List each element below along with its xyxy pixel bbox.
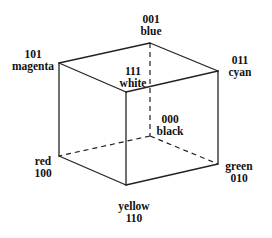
vertex-color-name: green	[221, 160, 257, 172]
edge-blue-cyan	[150, 43, 218, 71]
vertex-code: 111	[114, 65, 152, 77]
vertex-code: 010	[221, 172, 257, 184]
vertex-code: 011	[224, 54, 256, 66]
vertex-label-green: green 010	[221, 160, 257, 184]
vertex-color-name: blue	[136, 25, 166, 37]
vertex-color-name: magenta	[8, 60, 58, 72]
vertex-color-name: white	[114, 77, 152, 89]
vertex-label-blue: 001 blue	[136, 13, 166, 37]
vertex-code: 000	[152, 113, 188, 125]
hidden-edge-black-green	[150, 136, 218, 164]
vertex-color-name: yellow	[114, 200, 154, 212]
vertex-label-yellow: yellow 110	[114, 200, 154, 224]
vertex-label-magenta: 101 magenta	[8, 48, 58, 72]
vertex-code: 100	[30, 167, 56, 179]
vertex-color-name: cyan	[224, 66, 256, 78]
edge-yellow-green	[126, 164, 218, 185]
hidden-edge-black-red	[59, 136, 150, 156]
edge-magenta-blue	[59, 43, 150, 63]
vertex-label-white: 111 white	[114, 65, 152, 89]
vertex-code: 110	[114, 212, 154, 224]
vertex-label-cyan: 011 cyan	[224, 54, 256, 78]
vertex-color-name: black	[152, 125, 188, 137]
vertex-code: 101	[8, 48, 58, 60]
vertex-label-black: 000 black	[152, 113, 188, 137]
vertex-code: 001	[136, 13, 166, 25]
vertex-label-red: red 100	[30, 155, 56, 179]
vertex-color-name: red	[30, 155, 56, 167]
edge-red-yellow	[59, 156, 126, 185]
